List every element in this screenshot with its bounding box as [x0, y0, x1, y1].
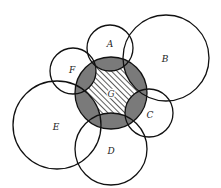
label-f: F [68, 65, 76, 75]
label-b: B [161, 54, 169, 64]
venn-diagram: ABCDEFGG [0, 0, 221, 188]
label-c: C [147, 110, 154, 120]
label-d: D [106, 146, 114, 156]
venn-svg: ABCDEFGG [0, 0, 221, 188]
label-e: E [52, 122, 60, 132]
label-a: A [106, 39, 114, 49]
label-g: G [107, 89, 114, 99]
